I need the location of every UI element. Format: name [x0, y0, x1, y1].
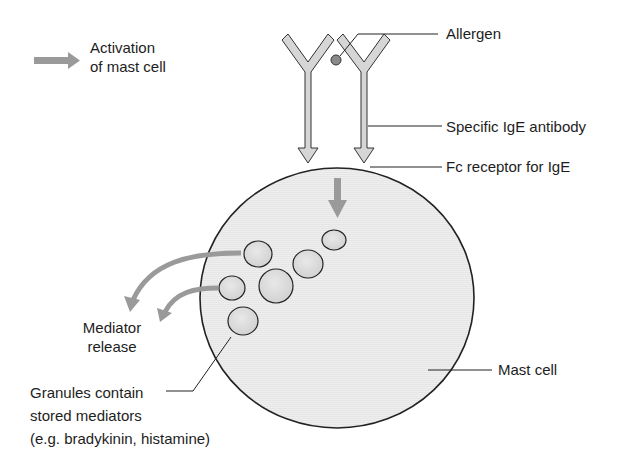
activation-arrow-icon: [34, 52, 80, 69]
ige-antibody-label: Specific IgE antibody: [446, 117, 586, 136]
legend-label: Activation of mast cell: [90, 38, 166, 76]
fc-receptor-label: Fc receptor for IgE: [446, 157, 570, 176]
granules-line-1: Granules contain: [30, 381, 210, 404]
legend-line-1: Activation: [90, 38, 166, 57]
mediator-release-line-2: release: [72, 337, 152, 356]
mediator-release-label: Mediator release: [72, 318, 152, 356]
allergen-icon: [331, 55, 341, 65]
ige-antibody-right-icon: [337, 34, 390, 163]
allergen-label: Allergen: [446, 24, 501, 43]
granules-line-2: stored mediators: [30, 404, 210, 427]
mediator-release-line-1: Mediator: [72, 318, 152, 337]
ige-antibody-left-icon: [282, 34, 334, 163]
granules-label: Granules contain stored mediators (e.g. …: [30, 381, 210, 450]
mast-cell-label: Mast cell: [498, 360, 557, 379]
legend-line-2: of mast cell: [90, 57, 166, 76]
granules-line-3: (e.g. bradykinin, histamine): [30, 427, 210, 450]
